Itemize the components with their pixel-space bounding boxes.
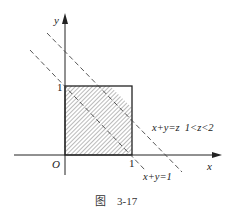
y-axis-arrow-icon <box>62 13 68 24</box>
x-axis-arrow-icon <box>212 152 222 158</box>
x-tick-1: 1 <box>129 157 135 169</box>
line1-label: x+y=1 <box>142 171 172 182</box>
figure-3-17: y x O 1 1 x+y=1 x+y=z 1<z<2 图 3-17 <box>0 0 233 212</box>
figure-caption: 图 3-17 <box>95 195 138 207</box>
x-axis-label: x <box>206 160 212 172</box>
shaded-region <box>65 86 132 155</box>
origin-label: O <box>52 158 60 170</box>
y-tick-1: 1 <box>57 81 63 93</box>
y-axis-label: y <box>53 14 59 26</box>
line2-label: x+y=z 1<z<2 <box>151 122 214 133</box>
